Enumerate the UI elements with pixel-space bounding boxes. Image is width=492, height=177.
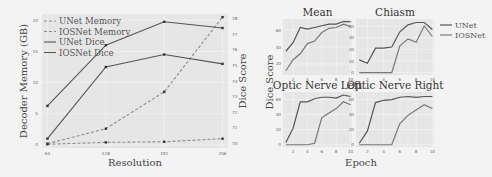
y-tick-label: 20 xyxy=(33,18,39,23)
y-tick-label: 40 xyxy=(349,112,355,117)
data-marker xyxy=(46,105,48,107)
left-y-ticks: 05101520 xyxy=(33,18,39,148)
y2-tick-label: 70 xyxy=(232,141,238,146)
y-tick-label: 20 xyxy=(276,127,282,132)
x-tick-label: 2 xyxy=(292,149,295,154)
subplot-title: Mean xyxy=(303,6,333,18)
x-tick-label: 8 xyxy=(415,149,418,154)
x-tick-label: 2 xyxy=(366,149,369,154)
y-tick-label: 0 xyxy=(351,70,354,75)
epoch-subplots: 204060246810Mean010203040246810Chiasm020… xyxy=(273,6,444,154)
data-marker xyxy=(163,53,165,55)
x-ticks: 64128192256 xyxy=(45,151,227,156)
y-tick-label: 0 xyxy=(351,142,354,147)
data-marker xyxy=(105,66,107,68)
x-tick-label: 4 xyxy=(382,149,385,154)
y-tick-label: 20 xyxy=(349,127,355,132)
x-tick-label: 6 xyxy=(320,149,323,154)
data-marker xyxy=(221,27,223,29)
y-tick-label: 15 xyxy=(33,49,39,54)
y-tick-label: 60 xyxy=(349,97,355,102)
x-tick-label: 10 xyxy=(348,149,354,154)
data-marker xyxy=(163,21,165,23)
y-axis-label: Decoder Memory (GB) xyxy=(18,24,29,138)
y-tick-label: 60 xyxy=(276,28,282,33)
subplot-area xyxy=(356,92,434,147)
y-tick-label: 20 xyxy=(276,61,282,66)
x-tick-label: 4 xyxy=(306,149,309,154)
data-marker xyxy=(221,63,223,65)
figure: 05101520 707172737475767778 64128192256 … xyxy=(0,0,492,177)
legend-label: UNet Dice xyxy=(59,37,105,47)
subplot-title: Chiasm xyxy=(375,6,415,18)
subplot-legend: UNetIOSNet xyxy=(440,21,486,40)
legend-label: IOSNet Dice xyxy=(59,48,114,58)
x-tick-label: 192 xyxy=(160,151,168,156)
x-tick-label: 128 xyxy=(102,151,110,156)
x-axis-label: Resolution xyxy=(108,157,162,168)
subplot-mean: 204060246810Mean xyxy=(276,6,354,82)
data-marker xyxy=(221,137,223,139)
legend-label: UNet Memory xyxy=(59,16,121,26)
y-tick-label: 10 xyxy=(33,80,39,85)
y-tick-label: 0 xyxy=(278,142,281,147)
y-tick-label: 60 xyxy=(276,97,282,102)
legend-label: IOSNet Memory xyxy=(59,27,130,37)
y-tick-label: 20 xyxy=(349,47,355,52)
data-marker xyxy=(105,127,107,129)
legend-label: UNet xyxy=(455,21,477,30)
data-marker xyxy=(221,16,223,18)
data-marker xyxy=(163,91,165,93)
y-tick-label: 40 xyxy=(276,45,282,50)
subplot-optic-nerve-right: 0204060246810Optic Nerve Right xyxy=(347,79,445,154)
memory-dice-chart: 05101520 707172737475767778 64128192256 … xyxy=(18,14,248,168)
x-tick-label: 256 xyxy=(219,151,227,156)
data-marker xyxy=(105,44,107,46)
data-marker xyxy=(163,141,165,143)
data-marker xyxy=(46,143,48,145)
y-tick-label: 5 xyxy=(35,111,38,116)
y2-tick-label: 71 xyxy=(232,125,238,130)
x-tick-label: 10 xyxy=(430,149,436,154)
data-marker xyxy=(46,137,48,139)
y-tick-label: 10 xyxy=(349,59,355,64)
y2-tick-label: 76 xyxy=(232,47,238,52)
x-tick-label: 6 xyxy=(399,149,402,154)
dice-axis-label: Dice Score xyxy=(264,54,275,109)
y2-tick-label: 78 xyxy=(232,16,238,21)
y-tick-label: 40 xyxy=(349,24,355,29)
x-tick-label: 8 xyxy=(335,149,338,154)
y2-axis-label: Dice Score xyxy=(237,53,248,108)
subplot-title: Optic Nerve Right xyxy=(347,79,445,91)
x-tick-label: 64 xyxy=(45,151,51,156)
y2-tick-label: 72 xyxy=(232,110,238,115)
y-tick-label: 40 xyxy=(276,112,282,117)
y2-tick-label: 77 xyxy=(232,32,238,37)
data-marker xyxy=(105,141,107,143)
subplot-area xyxy=(356,19,434,75)
epoch-axis-label: Epoch xyxy=(345,157,377,168)
y-tick-label: 30 xyxy=(349,35,355,40)
y-tick-label: 0 xyxy=(35,142,38,147)
legend-label: IOSNet xyxy=(455,31,486,40)
subplot-chiasm: 010203040246810Chiasm xyxy=(349,6,436,82)
